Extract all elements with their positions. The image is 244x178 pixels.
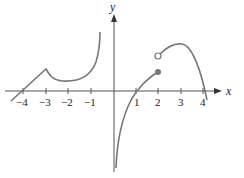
tick-label-3: 3 bbox=[178, 96, 184, 108]
tick-label-neg3: −3 bbox=[39, 96, 51, 108]
tick-label-4: 4 bbox=[200, 96, 206, 108]
tick-label-2: 2 bbox=[155, 96, 161, 108]
y-axis-arrow-icon bbox=[111, 14, 117, 22]
y-axis-label: y bbox=[109, 0, 116, 14]
tick-label-neg4: −4 bbox=[16, 96, 28, 108]
tick-label-neg2: −2 bbox=[61, 96, 73, 108]
x-axis-arrow-icon bbox=[214, 88, 222, 94]
x-axis-label: x bbox=[225, 84, 232, 98]
tick-label-1: 1 bbox=[134, 96, 140, 108]
curve-right-piece bbox=[160, 44, 207, 100]
tick-label-neg1: −1 bbox=[84, 96, 96, 108]
open-endpoint-dot bbox=[155, 53, 161, 59]
filled-endpoint-dot bbox=[155, 69, 161, 75]
curve-middle-piece bbox=[116, 72, 158, 168]
function-graph: x y −4 −3 −2 −1 1 2 3 4 bbox=[0, 0, 244, 178]
